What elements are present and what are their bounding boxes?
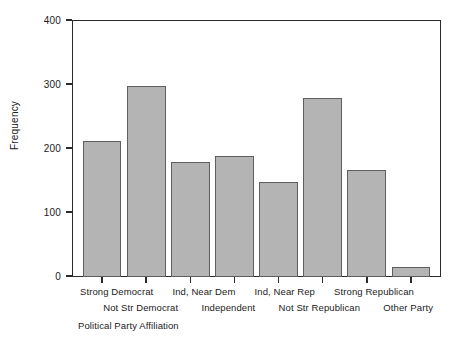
x-axis-ticks [72, 277, 441, 285]
x-label-slot: Ind, Near Dem [172, 286, 235, 300]
x-tick-mark [278, 277, 280, 283]
x-tick-mark [234, 277, 236, 283]
x-label-slot: Strong Republican [334, 286, 414, 300]
x-label-slot: Strong Democrat [80, 286, 153, 300]
bar-chart: Frequency 400 300 200 100 0 [0, 0, 458, 338]
x-label-slot: Ind, Near Rep [255, 286, 315, 300]
x-label-slot [360, 302, 383, 316]
x-tick-mark [322, 277, 324, 283]
y-tick-label: 200 [44, 143, 66, 154]
x-tick-label-ind-near-rep: Ind, Near Rep [255, 286, 315, 297]
x-tick-mark [410, 277, 412, 283]
x-label-slot: Not Str Republican [279, 302, 361, 316]
bar-strong-republican[interactable] [347, 170, 386, 277]
bar-slot [345, 20, 389, 277]
x-axis-labels-lower: Not Str Democrat Independent Not Str Rep… [72, 302, 441, 316]
bar-independent[interactable] [215, 156, 254, 277]
bar-slot [301, 20, 345, 277]
x-tick-label-independent: Independent [201, 302, 255, 313]
bar-slot [212, 20, 256, 277]
x-tick [168, 277, 212, 285]
y-tick-300: 300 [44, 78, 72, 90]
bar-not-str-democrat[interactable] [127, 86, 166, 277]
y-tick-label: 400 [44, 15, 66, 26]
x-tick-mark [190, 277, 192, 283]
y-tick-label: 100 [44, 207, 66, 218]
bar-other-party[interactable] [392, 267, 431, 277]
x-label-slot: Other Party [383, 302, 433, 316]
x-label-slot: Independent [201, 302, 255, 316]
y-tick-label: 300 [44, 79, 66, 90]
bar-series [72, 20, 441, 277]
x-label-slot [414, 286, 433, 300]
y-axis-ticks: 400 300 200 100 0 [0, 0, 72, 277]
x-tick [257, 277, 301, 285]
x-tick [345, 277, 389, 285]
x-label-slot [178, 302, 201, 316]
bar-ind-near-rep[interactable] [259, 182, 298, 277]
x-label-slot: Not Str Democrat [103, 302, 178, 316]
x-label-slot [235, 286, 254, 300]
x-tick [301, 277, 345, 285]
x-label-slot [153, 286, 172, 300]
x-tick [389, 277, 433, 285]
y-tick-label: 0 [55, 271, 66, 282]
bar-slot [80, 20, 124, 277]
y-tick-0: 0 [55, 270, 72, 282]
x-tick-mark [366, 277, 368, 283]
bar-slot [257, 20, 301, 277]
x-tick-mark [101, 277, 103, 283]
x-tick [80, 277, 124, 285]
x-axis-labels-upper: Strong Democrat Ind, Near Dem Ind, Near … [72, 286, 441, 300]
x-tick-label-ind-near-dem: Ind, Near Dem [172, 286, 235, 297]
y-tick-400: 400 [44, 14, 72, 26]
x-tick-label-not-str-democrat: Not Str Democrat [103, 302, 178, 313]
x-tick [124, 277, 168, 285]
x-tick-label-other-party: Other Party [383, 302, 433, 313]
bar-slot [389, 20, 433, 277]
bar-slot [168, 20, 212, 277]
x-tick-label-strong-republican: Strong Republican [334, 286, 414, 297]
bar-slot [124, 20, 168, 277]
x-label-slot [255, 302, 278, 316]
x-tick-label-not-str-republican: Not Str Republican [279, 302, 361, 313]
x-tick [212, 277, 256, 285]
x-tick-mark [145, 277, 147, 283]
x-tick-label-strong-democrat: Strong Democrat [80, 286, 153, 297]
x-label-slot [315, 286, 334, 300]
y-tick-200: 200 [44, 142, 72, 154]
bar-ind-near-dem[interactable] [171, 162, 210, 277]
bar-not-str-republican[interactable] [303, 98, 342, 277]
x-label-slot [80, 302, 103, 316]
x-axis-title: Political Party Affiliation [78, 320, 179, 331]
bar-strong-democrat[interactable] [83, 141, 122, 277]
y-tick-100: 100 [44, 206, 72, 218]
plot-area [72, 20, 441, 277]
